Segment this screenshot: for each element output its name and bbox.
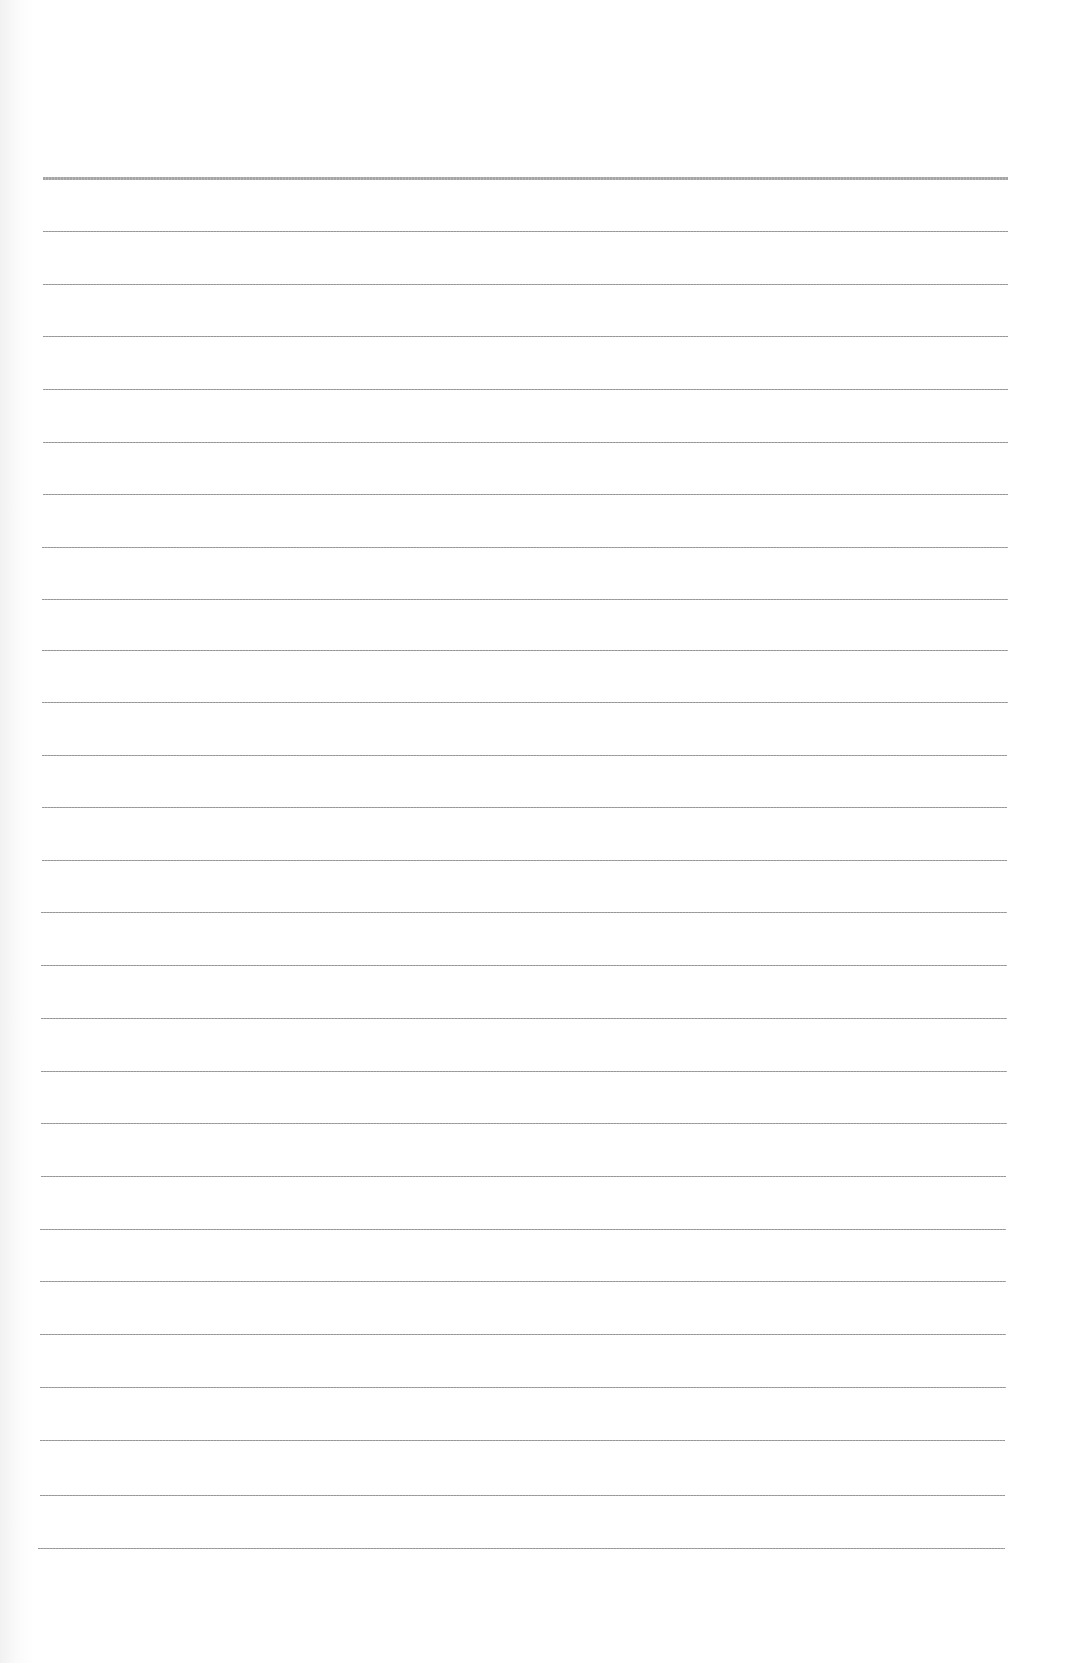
ruled-line bbox=[41, 1176, 1006, 1177]
ruled-line bbox=[43, 336, 1008, 337]
ruled-line bbox=[43, 389, 1008, 390]
ruled-line bbox=[40, 1281, 1006, 1282]
ruled-line bbox=[42, 860, 1007, 861]
header-bleedthrough-right bbox=[585, 4, 645, 30]
ruled-line bbox=[43, 284, 1008, 285]
ruled-line bbox=[40, 1334, 1006, 1335]
ruled-line bbox=[41, 965, 1007, 966]
ruled-line bbox=[41, 1123, 1007, 1124]
ruled-line bbox=[40, 1387, 1006, 1388]
ruled-line bbox=[40, 1495, 1005, 1496]
ruled-line bbox=[41, 912, 1007, 913]
header-rule bbox=[43, 177, 1008, 180]
ruled-line bbox=[40, 1440, 1005, 1441]
ruled-line bbox=[41, 1071, 1007, 1072]
header-bleedthrough-left bbox=[160, 4, 250, 30]
ruled-line bbox=[42, 755, 1007, 756]
ruled-line bbox=[43, 231, 1008, 232]
ruled-line bbox=[40, 1229, 1006, 1230]
ruled-line bbox=[42, 650, 1008, 651]
ruled-line bbox=[42, 702, 1008, 703]
ruled-line bbox=[43, 494, 1008, 495]
ruled-line bbox=[42, 547, 1008, 548]
ruled-line bbox=[43, 442, 1008, 443]
ruled-line bbox=[42, 807, 1007, 808]
ruled-line bbox=[41, 1018, 1007, 1019]
lined-paper-page bbox=[0, 0, 1074, 1663]
ruled-line bbox=[38, 1548, 1005, 1549]
ruled-line bbox=[42, 599, 1008, 600]
